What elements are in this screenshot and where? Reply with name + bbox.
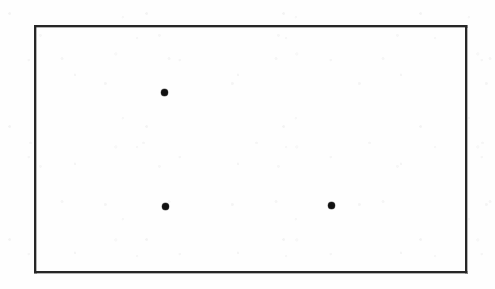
figure-frame-rectangle [34, 25, 467, 273]
point-top [161, 89, 168, 96]
frame-edge-bottom [34, 271, 467, 273]
frame-edge-top [34, 25, 467, 27]
frame-edge-left [34, 25, 36, 273]
point-bottom-right [328, 202, 335, 209]
scanned-page [0, 0, 495, 289]
frame-edge-right [465, 25, 467, 273]
point-bottom-left [162, 203, 169, 210]
